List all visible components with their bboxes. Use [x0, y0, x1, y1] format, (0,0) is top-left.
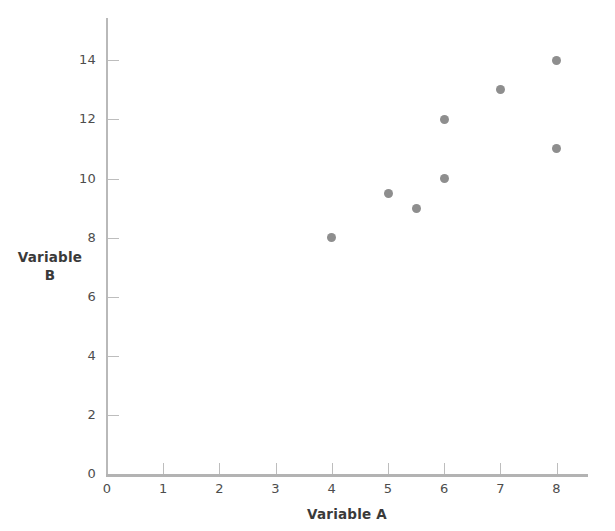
x-axis-tick-label: 1	[148, 482, 178, 495]
y-axis-tick	[108, 415, 119, 416]
y-axis-tick	[108, 119, 119, 120]
x-axis-title: Variable A	[106, 506, 588, 522]
y-axis-tick-label-text: 14	[70, 53, 96, 66]
scatter-chart: 02468101214012345678 Variable B Variable…	[0, 0, 615, 531]
y-axis-title-line-1: Variable	[6, 248, 94, 266]
x-axis-tick	[163, 463, 164, 474]
x-axis-tick-label: 8	[542, 482, 572, 495]
y-axis-tick-label-text: 2	[70, 408, 96, 421]
data-point	[327, 233, 336, 242]
y-axis-tick	[108, 238, 119, 239]
x-axis-tick-label: 2	[204, 482, 234, 495]
x-axis-tick	[388, 463, 389, 474]
y-axis-tick-label: 8	[62, 231, 96, 245]
y-axis-tick-label-text: 4	[70, 349, 96, 362]
data-point	[496, 85, 505, 94]
x-axis-tick-label: 5	[373, 482, 403, 495]
y-axis-tick-label: 10	[62, 172, 96, 186]
y-axis-tick-label-text: 0	[70, 467, 96, 480]
x-axis-tick	[276, 463, 277, 474]
y-axis-title-line-2: B	[6, 266, 94, 284]
data-point	[552, 144, 561, 153]
x-axis-tick-label: 0	[92, 482, 122, 495]
y-axis-tick-label-text: 6	[70, 290, 96, 303]
y-axis-tick-label: 6	[62, 290, 96, 304]
x-axis-tick	[557, 463, 558, 474]
y-axis-tick	[108, 60, 119, 61]
y-axis-title: Variable B	[6, 248, 94, 284]
y-axis-tick-label: 2	[62, 408, 96, 422]
data-point	[440, 115, 449, 124]
y-axis-tick-label: 0	[62, 467, 96, 481]
data-point	[552, 56, 561, 65]
data-point	[440, 174, 449, 183]
x-axis-tick-label: 6	[429, 482, 459, 495]
y-axis-tick	[108, 356, 119, 357]
x-axis-tick-label: 7	[485, 482, 515, 495]
x-axis-tick	[332, 463, 333, 474]
y-axis-tick-label: 12	[62, 112, 96, 126]
y-axis-tick	[108, 179, 119, 180]
x-axis-tick-label: 3	[261, 482, 291, 495]
y-axis-tick-label: 4	[62, 349, 96, 363]
y-axis-tick-label: 14	[62, 53, 96, 67]
x-axis-tick-label: 4	[317, 482, 347, 495]
x-axis-tick	[444, 463, 445, 474]
data-point	[412, 204, 421, 213]
y-axis-tick-label-text: 10	[70, 172, 96, 185]
y-axis-tick-label-text: 12	[70, 112, 96, 125]
y-axis-tick-label-text: 8	[70, 231, 96, 244]
x-axis-tick	[219, 463, 220, 474]
data-point	[384, 189, 393, 198]
x-axis-tick	[500, 463, 501, 474]
y-axis-tick	[108, 297, 119, 298]
